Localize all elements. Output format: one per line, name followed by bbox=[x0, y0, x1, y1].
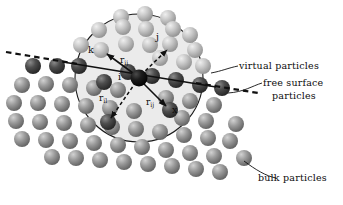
virtual-particle bbox=[138, 21, 154, 37]
bulk-particle bbox=[164, 158, 180, 174]
virtual-particle bbox=[195, 58, 211, 74]
bulk-particle bbox=[158, 142, 174, 158]
bulk-particle bbox=[110, 82, 126, 98]
bulk-particle bbox=[38, 76, 54, 92]
virtual-particle bbox=[137, 6, 153, 22]
free-surface-particle bbox=[96, 74, 112, 90]
bulk-particle bbox=[56, 115, 72, 131]
label-particle-x: x bbox=[172, 104, 177, 115]
bulk-particle bbox=[228, 116, 244, 132]
bulk-particle bbox=[38, 132, 54, 148]
bulk-particle bbox=[80, 117, 96, 133]
virtual-particle bbox=[118, 36, 134, 52]
center-particle-i bbox=[131, 70, 148, 87]
leader-virtual-particles bbox=[211, 66, 238, 73]
bulk-particle bbox=[152, 124, 168, 140]
label-r-il: ril bbox=[99, 93, 107, 103]
virtual-particle bbox=[176, 54, 192, 70]
label-r-il-sub: il bbox=[103, 97, 107, 104]
bulk-particle bbox=[116, 154, 132, 170]
bulk-particle bbox=[198, 113, 214, 129]
bulk-particle bbox=[62, 77, 78, 93]
virtual-particle bbox=[182, 27, 198, 43]
label-r-ij-lower: rij bbox=[146, 97, 154, 107]
bulk-particle bbox=[32, 114, 48, 130]
bulk-particle bbox=[14, 131, 30, 147]
bulk-particle bbox=[182, 145, 198, 161]
label-r-ij-upper-sub: ij bbox=[124, 59, 128, 66]
virtual-particle bbox=[187, 42, 203, 58]
virtual-particle bbox=[115, 19, 131, 35]
label-particle-j: j bbox=[156, 31, 159, 42]
bulk-particle bbox=[14, 77, 30, 93]
bulk-particle bbox=[110, 137, 126, 153]
bulk-particle bbox=[6, 95, 22, 111]
bulk-particle bbox=[86, 135, 102, 151]
bulk-particle bbox=[134, 139, 150, 155]
free-surface-particle bbox=[25, 58, 41, 74]
annotation-virtual-particles: virtual particles bbox=[239, 60, 319, 71]
virtual-particle bbox=[152, 50, 168, 66]
bulk-particle bbox=[68, 150, 84, 166]
bulk-particle bbox=[126, 103, 142, 119]
bulk-particle bbox=[182, 93, 198, 109]
bulk-particle bbox=[30, 95, 46, 111]
bulk-particle bbox=[212, 164, 228, 180]
bulk-particle bbox=[236, 150, 252, 166]
bulk-particle bbox=[128, 121, 144, 137]
bulk-particle bbox=[140, 156, 156, 172]
bulk-particle bbox=[176, 127, 192, 143]
virtual-particle bbox=[91, 22, 107, 38]
bulk-particle bbox=[62, 133, 78, 149]
annotation-bulk-particles: bulk particles bbox=[258, 172, 327, 183]
bulk-particle bbox=[206, 148, 222, 164]
bulk-particle bbox=[200, 130, 216, 146]
label-particle-k: k bbox=[88, 44, 94, 55]
virtual-particle bbox=[73, 37, 89, 53]
bulk-particle bbox=[222, 133, 238, 149]
label-particle-i: i bbox=[118, 71, 121, 82]
bulk-particle bbox=[78, 98, 94, 114]
virtual-particle bbox=[165, 21, 181, 37]
bulk-particle bbox=[44, 149, 60, 165]
annotation-free-surface-line1: free surface bbox=[263, 77, 323, 88]
virtual-particle-j bbox=[162, 36, 178, 52]
label-r-ij-lower-sub: ij bbox=[150, 101, 154, 108]
bulk-particle bbox=[206, 97, 222, 113]
label-r-ij-upper: rij bbox=[120, 55, 128, 65]
bulk-particle bbox=[188, 161, 204, 177]
figure-canvas: virtual particles free surface particles… bbox=[0, 0, 343, 205]
bulk-particle bbox=[8, 113, 24, 129]
annotation-free-surface-line2: particles bbox=[272, 90, 316, 101]
free-surface-particle-l bbox=[100, 114, 116, 130]
bulk-particle bbox=[92, 152, 108, 168]
virtual-particle-k bbox=[93, 42, 109, 58]
bulk-particle bbox=[54, 96, 70, 112]
